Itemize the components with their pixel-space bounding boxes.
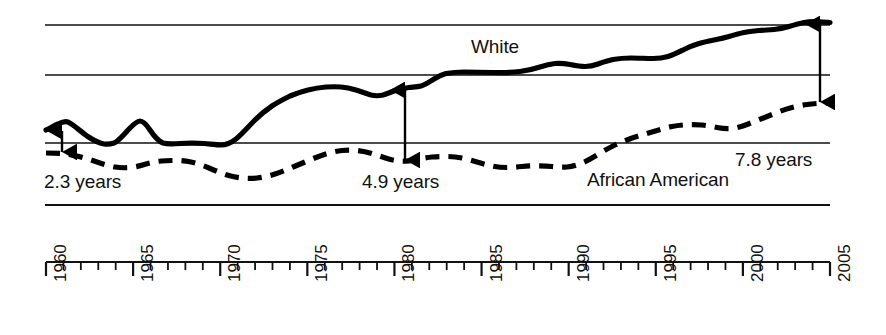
series-label-african-american: African American	[587, 170, 729, 189]
series-line-white	[46, 22, 830, 145]
x-axis-tick-label-1980: 1980	[400, 244, 417, 282]
x-axis-tick-label-1990: 1990	[575, 244, 592, 282]
x-axis-tick-label-2005: 2005	[836, 244, 853, 282]
x-axis-tick-label-1960: 1960	[52, 244, 69, 282]
x-axis	[46, 262, 830, 276]
life-expectancy-gap-chart: White African American 2.3 years 4.9 yea…	[0, 0, 886, 335]
x-axis-tick-label-1965: 1965	[139, 244, 156, 282]
x-axis-tick-label-1995: 1995	[662, 244, 679, 282]
gap-label-1960: 2.3 years	[44, 172, 121, 191]
x-axis-ticks	[46, 262, 830, 276]
x-axis-tick-label-1975: 1975	[313, 244, 330, 282]
x-axis-tick-label-1985: 1985	[488, 244, 505, 282]
gap-label-2005: 7.8 years	[735, 150, 812, 169]
series-label-white: White	[471, 37, 519, 56]
x-axis-tick-label-2000: 2000	[749, 244, 766, 282]
x-axis-tick-label-1970: 1970	[226, 244, 243, 282]
gap-label-1980: 4.9 years	[362, 172, 439, 191]
